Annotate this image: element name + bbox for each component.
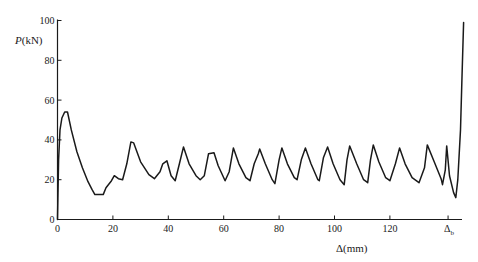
load-displacement-chart: 020406080100 020406080100120Δb P(kN) Δ(m… <box>0 0 478 262</box>
x-tick-label: 40 <box>163 223 173 234</box>
x-axis-label: Δ(mm) <box>336 242 368 255</box>
x-tick-label: 0 <box>55 223 60 234</box>
y-tick-label: 60 <box>45 95 55 106</box>
x-axis: 020406080100120Δb <box>55 216 462 237</box>
y-tick-label: 20 <box>45 174 55 185</box>
x-tick-label: 120 <box>382 223 397 234</box>
y-tick-label: 80 <box>45 55 55 66</box>
x-tick-label: 100 <box>327 223 342 234</box>
y-axis-label-unit: (kN) <box>22 34 43 47</box>
x-tick-label: 20 <box>108 223 118 234</box>
data-series <box>58 23 464 220</box>
load-curve <box>58 23 464 220</box>
x-tick-label: 80 <box>274 223 284 234</box>
y-tick-label: 100 <box>40 15 55 26</box>
x-tick-label-delta-b: Δb <box>444 223 454 237</box>
y-tick-label: 40 <box>45 134 55 145</box>
y-tick-label: 0 <box>50 214 55 225</box>
y-axis-label: P(kN) <box>14 34 43 47</box>
x-tick-label: 60 <box>219 223 229 234</box>
